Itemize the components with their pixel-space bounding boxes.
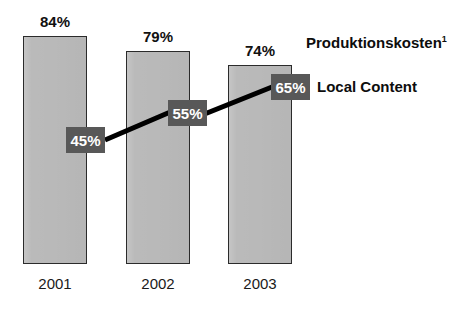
category-label-2001: 2001 — [23, 275, 87, 292]
local-content-marker-2003: 65% — [271, 74, 310, 100]
local-content-marker-2001: 45% — [66, 127, 105, 153]
bar-value-2002: 79% — [126, 28, 190, 45]
bar-value-2003: 74% — [228, 42, 292, 59]
chart-container: 84% 79% 74% 45% 55% 65% 2001 2002 2003 P… — [0, 0, 466, 310]
legend-production-costs: Produktionskosten1 — [306, 34, 447, 51]
legend-local-content: Local Content — [317, 78, 417, 95]
local-content-marker-2002: 55% — [168, 100, 207, 126]
legend-production-costs-text: Produktionskosten — [306, 34, 442, 51]
category-label-2002: 2002 — [126, 275, 190, 292]
bar-value-2001: 84% — [23, 13, 87, 30]
legend-production-costs-superscript: 1 — [442, 34, 447, 44]
legend-local-content-text: Local Content — [317, 78, 417, 95]
category-label-2003: 2003 — [228, 275, 292, 292]
bar-2002 — [126, 51, 190, 264]
